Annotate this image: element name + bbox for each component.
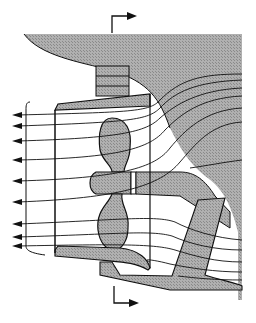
section-marker-bottom xyxy=(114,286,139,307)
section-marker-top xyxy=(112,12,137,33)
propeller-blade-upper xyxy=(99,118,130,172)
arrow-left-icon xyxy=(12,112,22,118)
arrow-left-icon xyxy=(12,234,22,240)
arrow-left-icon xyxy=(12,138,22,144)
stern-flow-diagram xyxy=(0,0,256,323)
arrow-left-icon xyxy=(12,178,22,184)
arrow-left-icon xyxy=(12,221,22,227)
diagram-canvas xyxy=(0,0,256,323)
arrow-left-icon xyxy=(12,199,22,205)
arrow-left-icon xyxy=(12,157,22,163)
propeller-blade-lower xyxy=(98,194,128,250)
arrow-left-icon xyxy=(12,123,22,129)
propeller-shaft xyxy=(131,172,136,194)
arrow-left-icon xyxy=(12,243,22,249)
outflow-arrows xyxy=(12,112,22,249)
stern-post xyxy=(96,66,129,96)
